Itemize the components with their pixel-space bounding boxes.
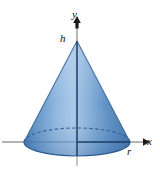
y-axis-cap [75, 23, 78, 29]
y-axis-label: y [72, 9, 77, 20]
radius-label: r [127, 146, 131, 157]
cone-figure: y h x r [0, 0, 160, 171]
x-axis-label: x [147, 136, 152, 147]
cone-diagram-svg [0, 0, 160, 171]
height-label: h [60, 33, 66, 44]
